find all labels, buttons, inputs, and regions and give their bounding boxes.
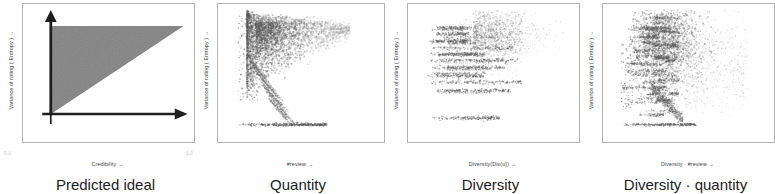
ideal-region-grain: [51, 26, 184, 114]
scatter-svg-diversity-quantity: [603, 4, 774, 142]
y-axis-label-text: Variance of rating ( Entropy ) →: [203, 31, 209, 110]
plot-area-predicted-ideal: [22, 3, 195, 143]
plot-area-diversity: [407, 3, 580, 143]
x-axis-arrowhead: [175, 109, 188, 120]
y-axis-arrowhead: [45, 10, 57, 22]
plot-area-quantity: [217, 3, 385, 143]
plot-canvas-diversity-quantity: [603, 4, 774, 142]
panel-caption-predicted-ideal: Predicted ideal: [0, 176, 203, 193]
y-axis-label-text: Variance of rating ( Entropy ) →: [393, 31, 399, 110]
panel-diversity: Variance of rating ( Entropy ) → Diversi…: [385, 0, 580, 194]
plot-canvas-diversity: [408, 4, 579, 142]
x-axis-label-diversity-quantity: Diversity · #review →: [570, 160, 775, 169]
plot-canvas-quantity: [218, 4, 384, 142]
panel-diversity-quantity: Variance of rating ( Entropy ) → Diversi…: [580, 0, 775, 194]
x-axis-label-predicted-ideal: Credibility →: [0, 160, 205, 169]
scatter-points-quantity: [238, 9, 351, 127]
scatter-svg-diversity: [408, 4, 579, 142]
x-tick-max: 1.0: [186, 150, 193, 156]
plot-block-quantity: Variance of rating ( Entropy ) →: [195, 0, 385, 150]
scatter-svg-quantity: [218, 4, 384, 142]
x-axis-ticks-diversity: [385, 150, 580, 159]
y-axis-label-text: Variance of rating ( Entropy ) →: [588, 31, 594, 110]
panel-quantity: Variance of rating ( Entropy ) → #review…: [195, 0, 385, 194]
x-axis-ticks-predicted-ideal: 0.0 1.0: [0, 150, 195, 159]
x-axis-ticks-diversity-quantity: [580, 150, 775, 159]
plot-canvas-predicted-ideal: [23, 4, 194, 142]
x-axis-label-quantity: #review →: [185, 160, 395, 169]
panel-predicted-ideal: Variance of rating ( Entropy ) →: [0, 0, 195, 194]
y-axis-label-text: Variance of rating ( Entropy ) →: [8, 31, 14, 110]
scatter-points-diversity-quantity: [621, 9, 749, 127]
plot-block-predicted-ideal: Variance of rating ( Entropy ) →: [0, 0, 195, 150]
x-axis-ticks-quantity: [195, 150, 385, 159]
panel-caption-diversity-quantity: Diversity · quantity: [572, 176, 775, 193]
plot-block-diversity: Variance of rating ( Entropy ) →: [385, 0, 580, 150]
plot-block-diversity-quantity: Variance of rating ( Entropy ) →: [580, 0, 775, 150]
x-axis-label-diversity: Diversity(Div(u)) →: [375, 160, 590, 169]
panel-caption-quantity: Quantity: [187, 176, 393, 193]
y-axis-label-diversity: Variance of rating ( Entropy ) →: [385, 0, 407, 140]
y-axis-label-predicted-ideal: Variance of rating ( Entropy ) →: [0, 0, 22, 140]
y-axis-label-diversity-quantity: Variance of rating ( Entropy ) →: [580, 0, 602, 140]
panel-caption-diversity: Diversity: [377, 176, 588, 193]
y-axis-label-quantity: Variance of rating ( Entropy ) →: [195, 0, 217, 140]
schematic-triangle-svg: [23, 4, 194, 142]
scatter-points-diversity: [427, 10, 563, 122]
x-tick-min: 0.0: [4, 150, 11, 156]
plot-area-diversity-quantity: [602, 3, 775, 143]
figure-panel-row: Variance of rating ( Entropy ) →: [0, 0, 775, 194]
